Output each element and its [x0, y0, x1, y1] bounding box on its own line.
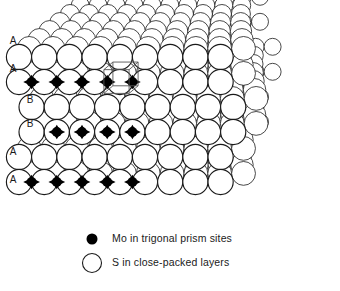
sulfur-sphere [57, 144, 82, 169]
sulfur-sphere [208, 169, 233, 194]
sulfur-sphere [82, 144, 107, 169]
sulfur-sphere [32, 144, 57, 169]
sulfur-sphere [183, 169, 208, 194]
sulfur-sphere [158, 169, 183, 194]
crystal-structure-svg: AABBAA Mo in trigonal prism sitesS in cl… [0, 0, 340, 291]
layer-label-a-1: A [10, 63, 17, 74]
sulfur-sphere [232, 161, 256, 185]
sulfur-sphere [183, 144, 208, 169]
sulfur-sphere [95, 94, 120, 119]
sulfur-sphere [208, 144, 233, 169]
legend-mo-marker-icon [87, 234, 98, 245]
sulfur-sphere [32, 44, 57, 69]
sulfur-sphere [132, 144, 157, 169]
sulfur-sphere [183, 69, 208, 94]
sulfur-sphere [208, 69, 233, 94]
sulfur-sphere [232, 61, 256, 85]
sulfur-sphere [183, 44, 208, 69]
layer-label-a-0: A [10, 35, 17, 46]
sulfur-sphere [195, 94, 220, 119]
sulfur-sphere [158, 69, 183, 94]
sulfur-sphere [252, 13, 269, 30]
legend-s-marker-icon [83, 254, 102, 273]
layer-label-b-3: B [27, 118, 34, 129]
sulfur-sphere [107, 44, 132, 69]
legend-label: S in close-packed layers [112, 256, 229, 268]
layer-label-a-4: A [10, 146, 17, 157]
sulfur-sphere [264, 38, 281, 55]
legend-label: Mo in trigonal prism sites [112, 232, 232, 244]
sulfur-sphere [232, 36, 256, 60]
sulfur-sphere [264, 63, 281, 80]
mos2-structure-figure: AABBAA Mo in trigonal prism sitesS in cl… [0, 0, 340, 291]
sulfur-sphere [244, 86, 268, 110]
sulfur-sphere [69, 94, 94, 119]
sulfur-sphere [57, 44, 82, 69]
sulfur-sphere [107, 144, 132, 169]
sulfur-sphere [120, 94, 145, 119]
sulfur-sphere [145, 94, 170, 119]
crystal-slab [6, 0, 281, 195]
layer-label-a-5: A [10, 174, 17, 185]
sulfur-sphere [244, 111, 268, 135]
sulfur-sphere [208, 44, 233, 69]
sulfur-sphere [158, 44, 183, 69]
sulfur-sphere [145, 119, 170, 144]
sulfur-sphere [132, 44, 157, 69]
sulfur-sphere [195, 119, 220, 144]
sulfur-sphere [82, 44, 107, 69]
sulfur-sphere [221, 94, 246, 119]
sulfur-sphere [44, 94, 69, 119]
sulfur-sphere [170, 94, 195, 119]
sulfur-sphere [158, 144, 183, 169]
sulfur-sphere [170, 119, 195, 144]
sulfur-sphere [221, 119, 246, 144]
layer-label-b-2: B [27, 94, 34, 105]
